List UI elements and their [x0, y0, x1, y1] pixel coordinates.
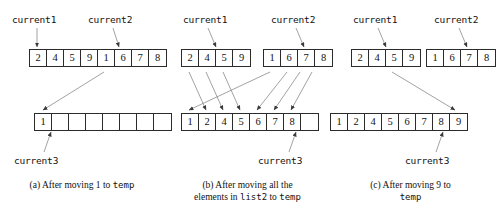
- panel-a-list1-cell-3: 9: [81, 50, 98, 66]
- panel-c-temp-cell-6: 8: [433, 114, 450, 130]
- panel-a-temp-cell-4: [103, 114, 120, 130]
- panel-b-list2-cell-0: 1: [264, 50, 281, 66]
- panel-a-current3-label: current3: [14, 155, 58, 166]
- panel-c-current3-label: current3: [405, 155, 449, 166]
- panel-b-list1-cell-1: 4: [199, 50, 216, 66]
- panel-b-list2-cell-2: 7: [298, 50, 315, 66]
- panel-a-list2-cell-2: 7: [132, 50, 149, 66]
- panel-a-list1-array: 2 4 5 9: [29, 49, 99, 67]
- panel-c-list2-cell-1: 6: [444, 50, 461, 66]
- panel-c-temp-cell-2: 4: [365, 114, 382, 130]
- panel-a-temp-cell-1: [52, 114, 69, 130]
- panel-b-list2-cell-1: 6: [281, 50, 298, 66]
- panel-c-temp-cell-1: 2: [348, 114, 365, 130]
- panel-a-list2-cell-1: 6: [115, 50, 132, 66]
- panel-c-temp-array: 1 2 4 5 6 7 8 9: [330, 113, 468, 131]
- panel-b-caption-mono-list2: list2: [240, 192, 267, 202]
- panel-b-current2-label: current2: [271, 14, 315, 25]
- panel-b-current2-pointer-line: [296, 28, 304, 47]
- panel-a-caption-text: (a) After moving 1 to: [30, 180, 113, 190]
- panel-a-current2-pointer-line: [113, 28, 119, 47]
- panel-a-temp-cell-0: 1: [35, 114, 52, 130]
- panel-a-list1-cell-0: 2: [30, 50, 47, 66]
- panel-c-current1-label: current1: [353, 14, 397, 25]
- panel-c-temp-cell-4: 6: [399, 114, 416, 130]
- panel-a-temp-array: 1: [34, 113, 172, 131]
- panel-b-temp-cell-3: 5: [233, 114, 250, 130]
- panel-c-caption-line2: temp: [330, 192, 491, 204]
- panel-b-current3-label: current3: [258, 155, 302, 166]
- panel-c-temp-cell-7: 9: [450, 114, 467, 130]
- panel-c-list2-cell-2: 7: [461, 50, 478, 66]
- panel-c-temp-cell-5: 7: [416, 114, 433, 130]
- panel-b-list1-cell-0: 2: [182, 50, 199, 66]
- panel-b-temp-cell-5: 7: [267, 114, 284, 130]
- panel-a-caption-mono: temp: [113, 180, 135, 190]
- panel-b-caption-line2-pre: elements in: [194, 192, 240, 202]
- panel-a-list2-cell-0: 1: [98, 50, 115, 66]
- panel-c-current3-pointer-line: [436, 132, 443, 152]
- panel-a-list2-cell-3: 8: [149, 50, 166, 66]
- panel-c-list2-array: 1 6 7 8: [426, 49, 496, 67]
- panel-b-move-arrows-list2: [189, 72, 312, 110]
- panel-b-caption-line1: (b) After moving all the: [202, 180, 292, 190]
- panel-b-temp-cell-2: 4: [216, 114, 233, 130]
- panel-c-temp-cell-0: 1: [331, 114, 348, 130]
- panel-c-current2-label: current2: [434, 14, 478, 25]
- panel-c-list1-cell-2: 5: [386, 50, 403, 66]
- panel-b-temp-array: 1 2 4 5 6 7 8: [181, 113, 319, 131]
- panel-a-list1-cell-1: 4: [47, 50, 64, 66]
- panel-c-list2-cell-0: 1: [427, 50, 444, 66]
- panel-b-current1-pointer-line: [208, 28, 216, 47]
- panel-b-list1-array: 2 4 5 9: [181, 49, 251, 67]
- panel-c-temp-cell-3: 5: [382, 114, 399, 130]
- panel-a-temp-cell-3: [86, 114, 103, 130]
- panel-a-current2-label: current2: [88, 14, 132, 25]
- panel-a-list2-array: 1 6 7 8: [97, 49, 167, 67]
- panel-a-list1-cell-2: 5: [64, 50, 81, 66]
- panel-c-list2-cell-3: 8: [478, 50, 495, 66]
- panel-b-caption-mono-temp: temp: [279, 192, 301, 202]
- panel-b-list1-cell-3: 9: [233, 50, 250, 66]
- panel-b-list2-cell-3: 8: [315, 50, 332, 66]
- panel-b-list1-cell-2: 5: [216, 50, 233, 66]
- panel-c-current2-pointer-line: [459, 28, 467, 47]
- panel-b-caption: (b) After moving all the elements in lis…: [165, 180, 330, 203]
- panel-a-current3-pointer-line: [44, 132, 51, 152]
- panel-c-list1-array: 2 4 5 9: [351, 49, 421, 67]
- panel-c-list1-cell-1: 4: [369, 50, 386, 66]
- panel-b-caption-line2-post: to: [267, 192, 279, 202]
- panel-b-current1-label: current1: [183, 14, 227, 25]
- panel-c-list1-cell-3: 9: [403, 50, 420, 66]
- panel-b-caption-line2: elements in list2 to temp: [165, 192, 330, 204]
- panel-c-caption-line1: (c) After moving 9 to: [370, 180, 451, 190]
- panel-a-temp-cell-6: [137, 114, 154, 130]
- panel-c-move-arrow: [392, 72, 455, 110]
- panel-b-list2-array: 1 6 7 8: [263, 49, 333, 67]
- panel-b-temp-cell-0: 1: [182, 114, 199, 130]
- panel-a-temp-cell-7: [154, 114, 171, 130]
- panel-c-current1-pointer-line: [378, 28, 386, 47]
- panel-b-temp-cell-1: 2: [199, 114, 216, 130]
- panel-a-current1-label: current1: [12, 14, 56, 25]
- panel-a-caption: (a) After moving 1 to temp: [0, 180, 164, 192]
- panel-c-caption: (c) After moving 9 to temp: [330, 180, 491, 203]
- panel-c-list1-cell-0: 2: [352, 50, 369, 66]
- panel-b-current3-pointer-line: [289, 132, 296, 152]
- panel-a-temp-cell-5: [120, 114, 137, 130]
- panel-a-temp-cell-2: [69, 114, 86, 130]
- panel-b-temp-cell-7: [301, 114, 318, 130]
- panel-b-temp-cell-6: 8: [284, 114, 301, 130]
- panel-b-move-arrows-list1: [189, 72, 240, 110]
- panel-a-move-arrow: [43, 72, 104, 110]
- panel-b-temp-cell-4: 6: [250, 114, 267, 130]
